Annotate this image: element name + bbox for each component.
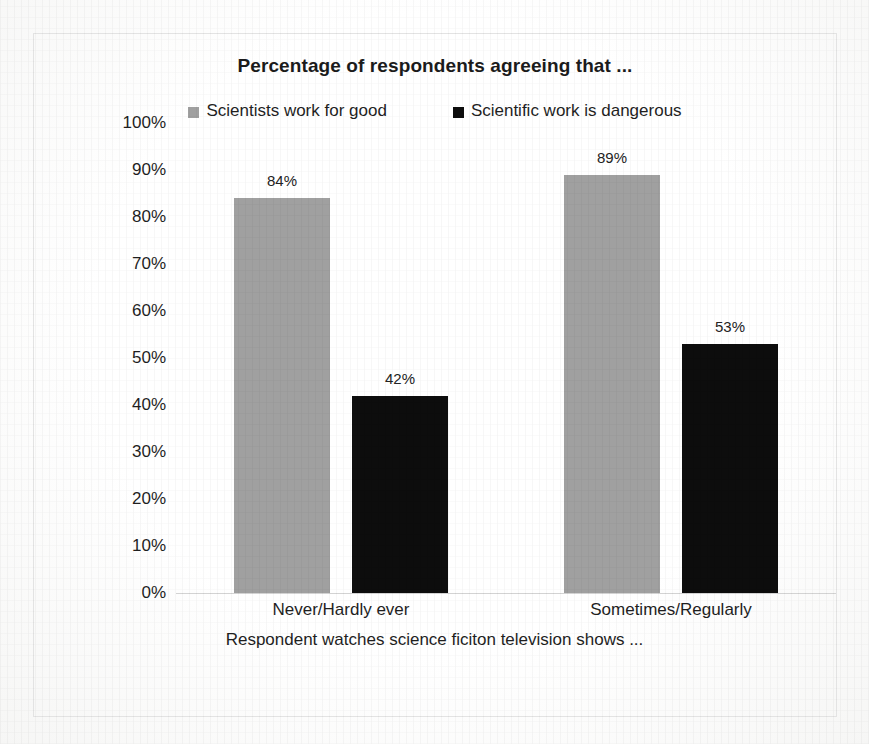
x-axis-category-label: Never/Hardly ever — [273, 600, 410, 620]
y-axis-tick-label: 60% — [132, 301, 166, 321]
bars-layer: 84%42%89%53% — [176, 123, 836, 593]
y-axis-tick-label: 90% — [132, 160, 166, 180]
bar-value-label: 84% — [267, 172, 297, 189]
y-axis-tick-label: 70% — [132, 254, 166, 274]
legend-entry[interactable]: Scientific work is dangerous — [453, 101, 682, 121]
y-axis-tick-label: 20% — [132, 489, 166, 509]
bar-value-label: 53% — [715, 318, 745, 335]
y-axis-tick-label: 50% — [132, 348, 166, 368]
y-axis-tick-label: 100% — [123, 113, 166, 133]
legend-label: Scientific work is dangerous — [471, 101, 682, 121]
bar[interactable] — [234, 198, 330, 593]
chart-title: Percentage of respondents agreeing that … — [34, 55, 836, 77]
legend-swatch-icon — [188, 107, 199, 118]
y-axis: 100%90%80%70%60%50%40%30%20%10%0% — [106, 123, 174, 593]
x-axis-line — [176, 593, 836, 594]
bar-value-label: 89% — [597, 149, 627, 166]
y-axis-tick-label: 10% — [132, 536, 166, 556]
legend-swatch-icon — [453, 107, 464, 118]
plot-area: 100%90%80%70%60%50%40%30%20%10%0% 84%42%… — [106, 123, 836, 593]
x-axis-title: Respondent watches science ficiton telev… — [67, 630, 802, 650]
bar[interactable] — [564, 175, 660, 593]
y-axis-tick-label: 30% — [132, 442, 166, 462]
bar[interactable] — [352, 396, 448, 593]
x-axis-category-label: Sometimes/Regularly — [590, 600, 752, 620]
legend-label: Scientists work for good — [206, 101, 386, 121]
y-axis-tick-label: 80% — [132, 207, 166, 227]
x-axis-category-labels: Never/Hardly everSometimes/Regularly — [176, 600, 836, 626]
bar-value-label: 42% — [385, 370, 415, 387]
y-axis-tick-label: 40% — [132, 395, 166, 415]
bar[interactable] — [682, 344, 778, 593]
chart-frame: Percentage of respondents agreeing that … — [33, 33, 837, 717]
legend-entry[interactable]: Scientists work for good — [188, 101, 386, 121]
y-axis-tick-label: 0% — [141, 583, 166, 603]
